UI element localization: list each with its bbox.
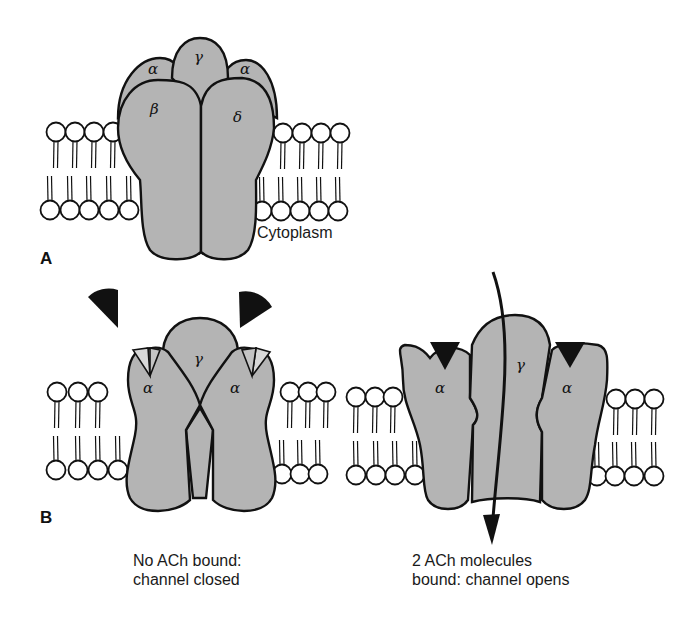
svg-text:α: α xyxy=(143,379,153,397)
svg-text:α: α xyxy=(230,379,240,397)
svg-text:γ: γ xyxy=(194,48,203,66)
panel-a-receptor xyxy=(118,38,277,259)
svg-text:β: β xyxy=(149,100,159,118)
svg-text:α: α xyxy=(562,379,572,397)
ach-molecule-unbound-right xyxy=(239,291,272,328)
caption-open: 2 ACh molecules bound: channel opens xyxy=(412,551,569,589)
caption-open-line2: bound: channel opens xyxy=(412,570,569,589)
svg-text:γ: γ xyxy=(516,356,525,374)
panel-b-closed-receptor xyxy=(127,318,276,511)
panel-b-closed-membrane-left xyxy=(47,383,128,480)
panel-b-letter: B xyxy=(40,508,52,528)
svg-text:γ: γ xyxy=(194,350,203,368)
caption-closed-line1: No ACh bound: xyxy=(133,551,242,570)
subunit-beta xyxy=(118,80,201,259)
svg-text:α: α xyxy=(240,60,250,78)
svg-text:α: α xyxy=(148,60,158,78)
receptor-diagram: α γ α β δ α γ α xyxy=(0,0,687,622)
ach-molecule-unbound-left xyxy=(88,289,118,328)
caption-closed: No ACh bound: channel closed xyxy=(133,551,242,589)
cytoplasm-label: Cytoplasm xyxy=(257,223,333,242)
svg-text:α: α xyxy=(435,379,445,397)
panel-a-letter: A xyxy=(40,249,52,269)
caption-open-line1: 2 ACh molecules xyxy=(412,551,569,570)
caption-closed-line2: channel closed xyxy=(133,570,242,589)
svg-text:δ: δ xyxy=(233,108,242,126)
